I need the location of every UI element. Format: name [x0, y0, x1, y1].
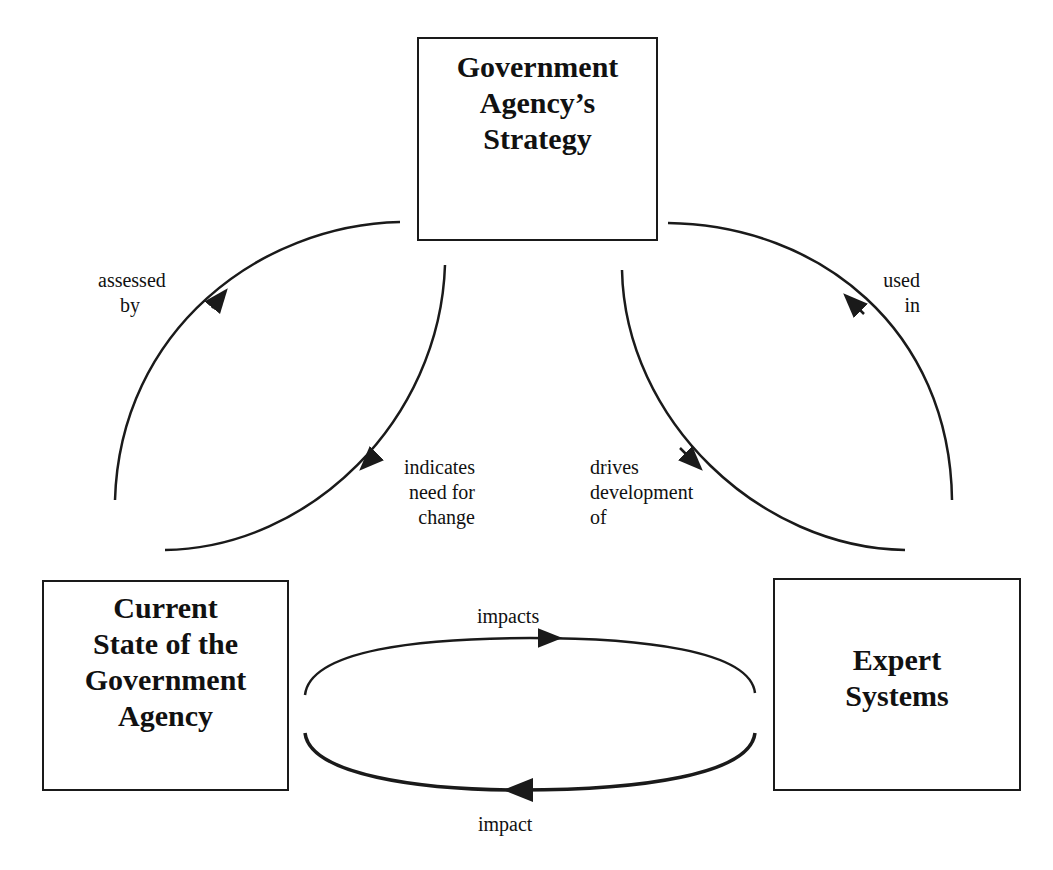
node-label-line: Government	[457, 49, 619, 85]
node-current-state: Current State of the Government Agency	[42, 580, 289, 791]
edge-label-line: development	[590, 480, 693, 505]
arc-impact	[305, 733, 755, 790]
edge-label-line: change	[380, 505, 475, 530]
node-label-line: Agency	[118, 698, 213, 734]
node-label-line: Systems	[845, 678, 948, 714]
edge-label-line: indicates	[380, 455, 475, 480]
edge-label-assessed-by: assessed by	[98, 268, 166, 318]
edge-label-impacts: impacts	[477, 604, 539, 629]
node-label-line: State of the	[93, 626, 238, 662]
node-label-line: Strategy	[483, 121, 591, 157]
edge-label-line: of	[590, 505, 693, 530]
edge-label-line: need for	[380, 480, 475, 505]
edge-label-used-in: used in	[868, 268, 920, 318]
arrow-assessed-by-icon	[212, 298, 220, 308]
node-government-agency-strategy: Government Agency’s Strategy	[417, 37, 658, 241]
edge-label-line: used	[868, 268, 920, 293]
node-label-line: Current	[113, 590, 217, 626]
node-label-line: Government	[85, 662, 247, 698]
edge-label-drives-development: drives development of	[590, 455, 693, 530]
edge-label-line: by	[98, 293, 166, 318]
edge-label-impact: impact	[478, 812, 532, 837]
arc-impacts	[305, 638, 755, 695]
arc-used-in	[668, 223, 952, 500]
edge-label-line: in	[868, 293, 920, 318]
edge-label-line: drives	[590, 455, 693, 480]
arrow-used-in-icon	[852, 302, 864, 314]
node-expert-systems: Expert Systems	[773, 578, 1021, 791]
node-label-line: Expert	[853, 642, 941, 678]
edge-label-indicates-need: indicates need for change	[380, 455, 475, 530]
arrow-indicates-need-icon	[368, 454, 376, 462]
arc-assessed-by	[115, 222, 400, 500]
edge-label-line: assessed	[98, 268, 166, 293]
node-label-line: Agency’s	[480, 85, 596, 121]
